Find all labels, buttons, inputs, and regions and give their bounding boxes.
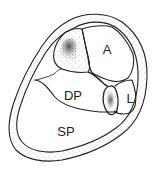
fibula-core bbox=[107, 92, 115, 108]
lateral-compartment-label: L bbox=[126, 92, 133, 105]
deep-posterior-compartment-label: DP bbox=[64, 89, 82, 102]
anterior-compartment-label: A bbox=[103, 43, 112, 56]
leg-cross-section-diagram: A DP L SP bbox=[0, 0, 162, 172]
cross-section-svg bbox=[0, 0, 162, 172]
superficial-posterior-compartment-label: SP bbox=[57, 125, 74, 138]
